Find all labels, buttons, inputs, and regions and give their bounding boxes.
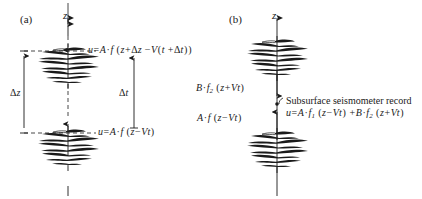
panel-a-lower-formula: u=A·f (z−Vt): [98, 126, 155, 137]
panel-b-upgoing-label: A·f (z−Vt): [197, 112, 242, 123]
panel-b-superposition-formula: u=A·f1 (z−Vt) +B·f2 (z+Vt): [286, 107, 404, 120]
panel-b-seismometer-marker: [275, 98, 283, 106]
panel-a-z-axis-label: z: [63, 9, 67, 21]
panel-a-label: (a): [20, 13, 32, 25]
panel-b-upper-wavelet: [247, 36, 308, 81]
panel-a-delta-z-measure: [20, 51, 28, 133]
panel-b-downgoing-label: B·f2 (z+Vt): [196, 82, 244, 95]
panel-a-delta-t-measure: [130, 58, 138, 128]
seismic-wave-diagram: (a) z u=A·f (z+Δz −V(t +Δt)) u=A·f (z−Vt…: [0, 0, 422, 199]
panel-a-upper-formula: u=A·f (z+Δz −V(t +Δt)): [88, 44, 192, 55]
panel-b-lower-wavelet: [247, 128, 308, 173]
panel-b-seismometer-annotation: Subsurface seismometer record: [286, 95, 412, 106]
panel-a-delta-z-label: Δz: [10, 87, 20, 98]
panel-a-delta-t-label: Δt: [119, 87, 128, 98]
panel-b-label: (b): [229, 13, 242, 25]
panel-b-z-axis-label: z: [272, 9, 276, 21]
